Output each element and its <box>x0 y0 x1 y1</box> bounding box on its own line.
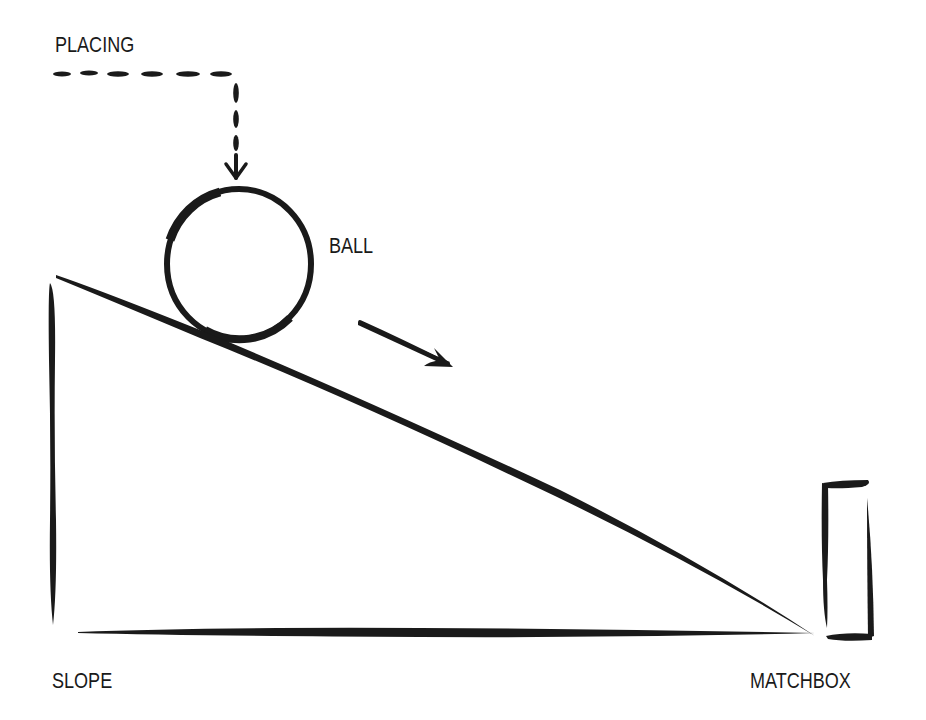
ball-circle <box>167 189 311 339</box>
motion-arrow-icon <box>358 322 453 367</box>
matchbox-label: MATCHBOX <box>750 668 851 694</box>
placing-arrow-head-icon <box>226 155 246 178</box>
slope-label: SLOPE <box>52 668 112 694</box>
matchbox-rect <box>822 480 874 641</box>
placing-dashed-path <box>53 70 239 151</box>
placing-label: PLACING <box>55 32 134 58</box>
diagram-drawing <box>0 0 926 720</box>
slope-triangle <box>49 275 815 637</box>
ball-label: BALL <box>329 233 373 259</box>
diagram-canvas: PLACING BALL SLOPE MATCHBOX <box>0 0 926 720</box>
